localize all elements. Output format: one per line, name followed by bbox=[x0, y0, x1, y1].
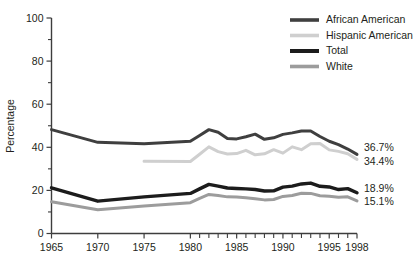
legend-label-white: White bbox=[326, 60, 353, 72]
legend-label-total: Total bbox=[326, 44, 348, 56]
x-tick-label: 1970 bbox=[86, 241, 110, 253]
end-label-african-american: 36.7% bbox=[364, 141, 394, 153]
y-tick-label: 60 bbox=[32, 98, 44, 110]
chart-legend: African AmericanHispanic AmericanTotalWh… bbox=[290, 13, 413, 72]
y-axis-title: Percentage bbox=[4, 99, 16, 153]
legend-label-hispanic-american: Hispanic American bbox=[326, 29, 413, 41]
x-tick-label: 1995 bbox=[318, 241, 342, 253]
y-tick-label: 40 bbox=[32, 141, 44, 153]
x-axis: 19651970197519801985199019951998 bbox=[40, 234, 369, 253]
series-line-hispanic-american bbox=[144, 143, 357, 161]
end-label-total: 18.9% bbox=[364, 182, 394, 194]
legend-label-african-american: African American bbox=[326, 13, 406, 25]
y-tick-label: 100 bbox=[26, 12, 44, 24]
end-label-hispanic-american: 34.4% bbox=[364, 155, 394, 167]
y-axis: 020406080100 bbox=[26, 12, 52, 240]
series-lines bbox=[52, 130, 358, 210]
x-tick-label: 1990 bbox=[271, 241, 295, 253]
y-tick-label: 80 bbox=[32, 55, 44, 67]
x-tick-label: 1975 bbox=[132, 241, 156, 253]
end-label-white: 15.1% bbox=[364, 195, 394, 207]
y-tick-label: 20 bbox=[32, 184, 44, 196]
chart-canvas: 020406080100 196519701975198019851990199… bbox=[0, 0, 417, 263]
x-tick-label: 1980 bbox=[179, 241, 203, 253]
line-chart: 020406080100 196519701975198019851990199… bbox=[0, 0, 417, 263]
y-tick-label: 0 bbox=[38, 227, 44, 239]
series-end-labels: 36.7%34.4%18.9%15.1% bbox=[364, 141, 394, 207]
x-tick-label: 1985 bbox=[225, 241, 249, 253]
x-tick-label: 1998 bbox=[345, 241, 369, 253]
x-tick-label: 1965 bbox=[40, 241, 64, 253]
